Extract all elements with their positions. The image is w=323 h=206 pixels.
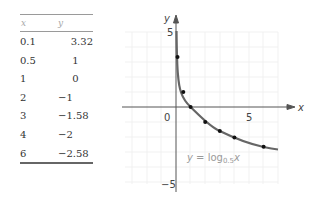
y-tick-label-neg5: −5: [161, 179, 176, 190]
point-6: [262, 145, 266, 149]
log-graph: x y 0 5 5 −5 y = log0.5x: [0, 0, 323, 206]
data-points: [176, 55, 266, 149]
x-axis-arrow-icon: [287, 105, 295, 110]
point-0.1: [176, 55, 180, 59]
curve-label: y = log0.5x: [186, 152, 240, 165]
curve-label-var: x: [233, 152, 240, 163]
point-4: [232, 136, 236, 140]
y-axis-label: y: [163, 13, 171, 24]
curve-label-base: 0.5: [223, 157, 234, 165]
y-tick-label-5: 5: [167, 27, 173, 38]
point-3: [218, 129, 222, 133]
x-tick-label-5: 5: [246, 112, 252, 123]
x-axis-label: x: [297, 102, 304, 113]
point-2: [203, 120, 207, 124]
point-0.5: [181, 90, 185, 94]
origin-label: 0: [164, 112, 170, 123]
y-axis-arrow-icon: [174, 15, 179, 23]
axes: [122, 15, 295, 192]
point-1: [189, 105, 193, 109]
